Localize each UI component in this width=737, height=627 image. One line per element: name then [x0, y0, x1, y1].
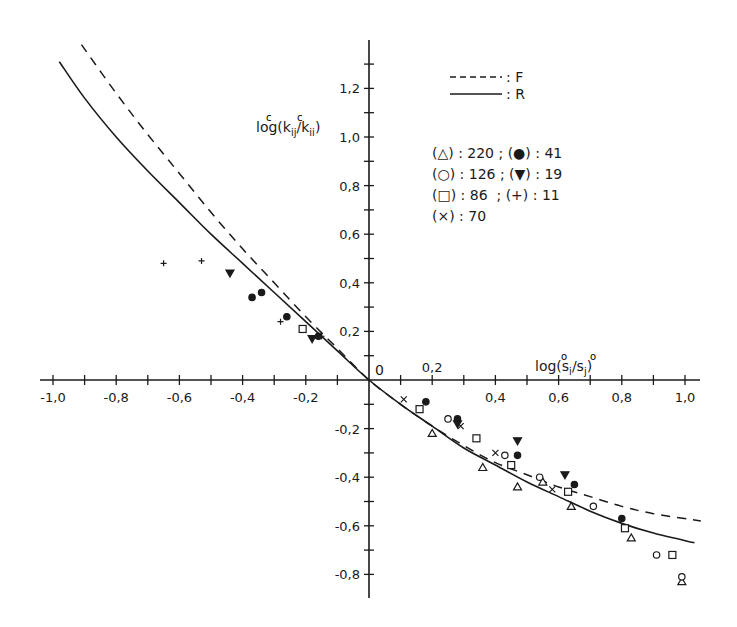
marker-triangle — [514, 483, 522, 490]
marker-triangle-down — [514, 438, 522, 445]
marker-square — [508, 462, 515, 469]
x-axis-label-sup2: o — [590, 351, 596, 362]
marker-circle — [653, 552, 659, 558]
marker-circle — [679, 574, 685, 580]
legend-marker-row: (□) : 86 ; (+) : 11 — [432, 187, 560, 203]
marker-layer — [161, 258, 686, 585]
marker-plus — [161, 260, 167, 266]
marker-square — [473, 435, 480, 442]
marker-square — [299, 325, 306, 332]
marker-circle — [445, 416, 451, 422]
marker-cross — [549, 486, 555, 492]
legend-lines: : F : R — [450, 69, 525, 102]
marker-triangle-down — [561, 472, 569, 479]
marker-plus — [199, 258, 205, 264]
x-ticks: -1,0-0,8-0,6-0,4-0,20,20,40,60,81,0 — [40, 360, 695, 405]
y-axis-label-sup2: c — [297, 112, 303, 123]
x-tick-label: -0,6 — [167, 390, 192, 405]
legend-markers: (△) : 220 ; (●) : 41 (○) : 126 ; (▼) : 1… — [432, 145, 562, 224]
legend-label-F: : F — [506, 69, 523, 85]
y-axis-label-sup1: c — [266, 112, 272, 123]
marker-circle — [536, 474, 542, 480]
curve-F — [81, 45, 700, 521]
marker-dot — [619, 515, 625, 521]
marker-triangle-down — [226, 270, 234, 277]
legend-label-R: : R — [506, 86, 525, 102]
legend-marker-row: (○) : 126 ; (▼) : 19 — [432, 166, 562, 182]
marker-dot — [514, 452, 520, 458]
y-tick-label: 0,4 — [339, 276, 360, 291]
legend-marker-row: (×) : 70 — [432, 208, 486, 224]
y-tick-label: -0,4 — [335, 470, 360, 485]
marker-cross — [401, 396, 407, 402]
x-tick-label: 1,0 — [675, 390, 696, 405]
marker-dot — [571, 481, 577, 487]
y-tick-label: 1,2 — [339, 81, 360, 96]
marker-triangle-down — [308, 336, 316, 343]
marker-dot — [423, 399, 429, 405]
y-tick-label: 0,8 — [339, 179, 360, 194]
marker-triangle — [428, 429, 436, 436]
origin-label: 0 — [375, 362, 384, 378]
x-tick-label: 0,4 — [485, 390, 506, 405]
y-tick-label: -0,6 — [335, 519, 360, 534]
marker-triangle — [479, 463, 487, 470]
marker-square — [565, 488, 572, 495]
marker-circle — [502, 452, 508, 458]
marker-dot — [249, 294, 255, 300]
x-tick-label: 0,6 — [548, 390, 569, 405]
y-ticks: -0,8-0,6-0,4-0,20,20,40,60,81,01,2 — [335, 64, 374, 582]
marker-dot — [284, 314, 290, 320]
marker-dot — [258, 289, 264, 295]
marker-triangle — [627, 534, 635, 541]
marker-square — [621, 525, 628, 532]
marker-circle — [590, 503, 596, 509]
x-tick-label: -0,4 — [230, 390, 255, 405]
legend-marker-row: (△) : 220 ; (●) : 41 — [432, 145, 562, 161]
chart-canvas: -1,0-0,8-0,6-0,4-0,20,20,40,60,81,0 -0,8… — [0, 0, 737, 627]
x-tick-label: 0,8 — [611, 390, 632, 405]
marker-cross — [492, 450, 498, 456]
x-tick-label: -0,8 — [104, 390, 129, 405]
y-tick-label: 0,6 — [339, 227, 360, 242]
x-tick-label: -0,2 — [293, 390, 318, 405]
y-tick-label: -0,8 — [335, 567, 360, 582]
marker-square — [416, 406, 423, 413]
curve-R — [59, 62, 694, 543]
curve-layer — [59, 45, 700, 543]
marker-square — [669, 551, 676, 558]
y-tick-label: 0,2 — [339, 324, 360, 339]
x-tick-label: -1,0 — [40, 390, 65, 405]
y-tick-label: -0,2 — [335, 422, 360, 437]
y-tick-label: 1,0 — [339, 130, 360, 145]
x-axis-label-sup1: o — [561, 351, 567, 362]
marker-plus — [278, 319, 284, 325]
x-tick-label: 0,2 — [422, 360, 443, 375]
